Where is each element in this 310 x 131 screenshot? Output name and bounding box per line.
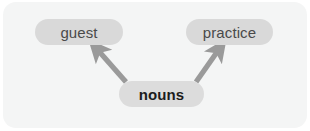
node-practice[interactable]: practice bbox=[186, 19, 273, 45]
node-practice-label: practice bbox=[203, 25, 256, 40]
concept-map-diagram: guest practice nouns bbox=[0, 0, 310, 131]
edge-nouns-to-practice bbox=[196, 49, 220, 83]
node-nouns[interactable]: nouns bbox=[119, 81, 204, 107]
node-guest-label: guest bbox=[60, 25, 97, 40]
node-guest[interactable]: guest bbox=[35, 19, 123, 45]
edge-nouns-to-guest bbox=[97, 49, 127, 83]
node-nouns-label: nouns bbox=[139, 87, 185, 102]
